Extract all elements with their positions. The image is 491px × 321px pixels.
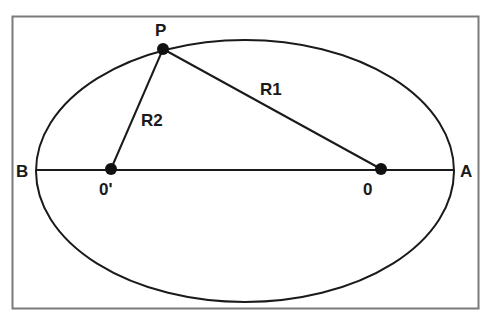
label-r1: R1 bbox=[260, 80, 282, 99]
label-a: A bbox=[460, 162, 472, 181]
label-p: P bbox=[155, 21, 166, 40]
label-r2: R2 bbox=[141, 111, 163, 130]
point-p bbox=[157, 43, 169, 55]
label-b: B bbox=[16, 162, 28, 181]
point-o-prime bbox=[105, 163, 117, 175]
ellipse-diagram: P R1 R2 B A 0 0' bbox=[0, 0, 491, 321]
frame bbox=[13, 17, 479, 309]
point-o bbox=[375, 163, 387, 175]
label-o-prime: 0' bbox=[99, 180, 113, 199]
label-o: 0 bbox=[363, 180, 372, 199]
